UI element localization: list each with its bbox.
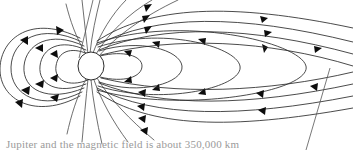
arrow-icon	[15, 99, 23, 108]
arrow-icon	[35, 80, 44, 88]
arrow-icon	[140, 127, 148, 135]
arrow-icon	[50, 50, 58, 58]
field-line-canvas	[0, 0, 353, 150]
tail-upper-2	[97, 21, 353, 45]
arrow-icon	[56, 26, 64, 35]
magnetosphere-figure: Jupiter and the magnetic field is about …	[0, 0, 353, 150]
dayside-closed-loops	[0, 28, 88, 106]
magnetotail-lower-arrowheads	[137, 83, 318, 135]
dayside-loop-3	[24, 39, 84, 94]
magnetotail-upper-lines	[97, 11, 353, 66]
tail-lower-4	[97, 92, 353, 122]
dayside-loop-4	[11, 33, 82, 100]
arrow-icon	[124, 50, 132, 57]
arrow-icon	[138, 89, 146, 97]
arrow-icon	[124, 76, 132, 83]
tail-upper-1	[97, 11, 353, 41]
upper-leader-line	[79, 0, 93, 58]
arrow-icon	[138, 115, 146, 123]
arrow-icon	[198, 38, 206, 45]
arrow-icon	[256, 90, 264, 98]
planet-body	[78, 52, 104, 80]
lower-right-leader-line	[306, 68, 330, 150]
teardrop-loop-2	[99, 45, 182, 87]
leader-lines	[79, 0, 330, 150]
arrow-icon	[21, 86, 30, 95]
arrow-icon	[314, 46, 322, 53]
arrow-icon	[258, 107, 266, 115]
teardrop-loop-1	[100, 54, 142, 80]
arrow-icon	[262, 44, 268, 53]
arrow-icon	[144, 4, 152, 12]
arrow-icon	[260, 16, 268, 23]
polar-line-n2	[90, 0, 100, 53]
arrow-icon	[50, 74, 58, 82]
arrow-icon	[310, 83, 318, 91]
magnetotail-lower-lines	[97, 72, 353, 122]
